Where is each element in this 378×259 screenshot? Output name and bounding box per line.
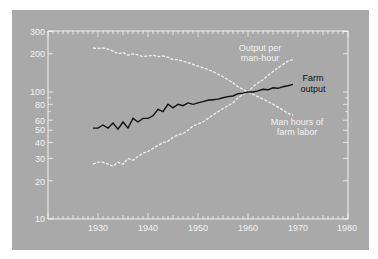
x-tick-1940: 1940	[138, 223, 158, 233]
annotation-farm-output: Farm output	[300, 73, 326, 94]
x-tick-1980: 1980	[337, 223, 357, 233]
x-tick-1960: 1960	[238, 223, 258, 233]
x-tick-labels: 1930 1940 1950 1960 1970 1980	[88, 223, 357, 233]
annotation-man-hours: Man hours of farm labor	[271, 117, 324, 137]
output-per-man-hour-line	[93, 60, 293, 167]
x-tick-1930: 1930	[88, 223, 108, 233]
annotation-farm-output-line1: Farm	[303, 73, 324, 83]
annotation-output-per-man-hour-line1: Output per	[239, 43, 282, 53]
y-tick-50: 50	[35, 125, 45, 135]
y-tick-10: 10	[35, 214, 45, 224]
y-tick-80: 80	[35, 100, 45, 110]
y-tick-200: 200	[30, 49, 45, 59]
annotation-farm-output-line2: output	[300, 84, 326, 94]
y-tick-30: 30	[35, 154, 45, 164]
x-tick-1950: 1950	[188, 223, 208, 233]
chart-plot: 1930 1940 1950 1960 1970 1980 300 200 10…	[0, 0, 378, 259]
y-tick-100: 100	[30, 87, 45, 97]
annotation-output-per-man-hour-line2: man-hour	[241, 53, 280, 63]
annotation-man-hours-line2: farm labor	[277, 127, 318, 137]
y-tick-300: 300	[30, 27, 45, 37]
annotation-output-per-man-hour: Output per man-hour	[239, 43, 282, 63]
y-tick-20: 20	[35, 177, 45, 187]
y-tick-labels: 300 200 100 80 60 50 40 30 20 10	[30, 27, 45, 224]
farm-output-line	[93, 84, 293, 129]
x-tick-1970: 1970	[288, 223, 308, 233]
annotation-man-hours-line1: Man hours of	[271, 117, 324, 127]
y-tick-40: 40	[35, 138, 45, 148]
